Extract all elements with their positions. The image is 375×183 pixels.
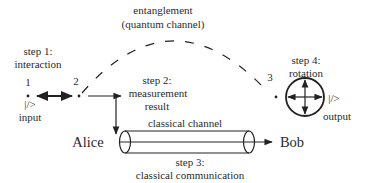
- step3-title: step 3:: [175, 156, 204, 168]
- node-2-label: 2: [73, 75, 79, 87]
- classical-channel-label: classical channel: [148, 117, 222, 129]
- classical-channel-cylinder: [120, 131, 273, 153]
- quantum-channel-label: (quantum channel): [122, 18, 205, 31]
- rotation-icon: [286, 78, 324, 116]
- entanglement-label: entanglement: [133, 4, 192, 16]
- output-state: |/>: [328, 92, 339, 104]
- node-1-dot: [27, 95, 30, 98]
- node-1-label: 1: [25, 76, 31, 88]
- step2-desc: measurement: [129, 87, 188, 99]
- step3-desc: classical communication: [136, 169, 245, 181]
- step2-result: result: [145, 100, 169, 112]
- step2-title: step 2:: [142, 74, 171, 86]
- teleportation-diagram: entanglement (quantum channel) step 1: i…: [0, 0, 375, 183]
- node-3-dot: [275, 96, 278, 99]
- alice-label: Alice: [72, 134, 103, 150]
- node-3-label: 3: [267, 71, 273, 83]
- step4-title: step 4:: [291, 54, 320, 66]
- output-label: output: [323, 110, 351, 122]
- step1-title: step 1:: [23, 45, 52, 57]
- node-2-dot: [78, 95, 81, 98]
- bob-label: Bob: [280, 134, 304, 150]
- input-state: |/>: [24, 98, 35, 110]
- input-label: input: [19, 111, 42, 123]
- step1-desc: interaction: [14, 58, 62, 70]
- entanglement-arc: [82, 41, 263, 93]
